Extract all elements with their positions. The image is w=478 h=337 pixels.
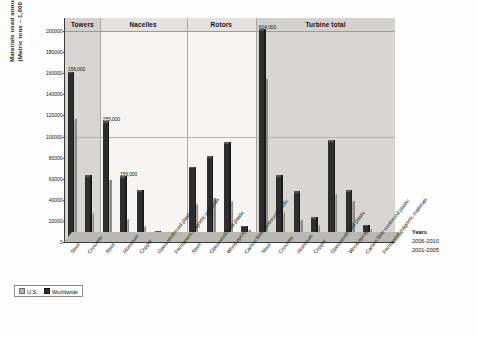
- y-axis-tick: 20000: [49, 218, 63, 224]
- y-axis-tick: 40000: [49, 197, 63, 203]
- bar-side-face: [264, 29, 266, 242]
- y-axis-tick: 80000: [49, 155, 63, 161]
- years-legend-back: 2001-2005: [412, 246, 439, 255]
- y-axis-tick: 180000: [46, 49, 62, 55]
- bar-side-face: [336, 194, 338, 237]
- bar-side-face: [353, 201, 355, 237]
- bar-side-face: [195, 167, 197, 242]
- bar-side-face: [110, 180, 112, 238]
- group-header: Towers: [65, 18, 100, 32]
- years-legend-front: 2006-2010: [412, 237, 439, 246]
- legend-swatch-us: [19, 288, 25, 294]
- bar-side-face: [75, 119, 77, 237]
- bar-side-face: [90, 175, 92, 242]
- years-legend: Years 2006-2010 2001-2005: [412, 228, 439, 255]
- gridline: [65, 137, 395, 138]
- bar-side-face: [73, 72, 75, 242]
- x-axis-label: Steel: [190, 242, 202, 255]
- group-header: Rotors: [187, 18, 256, 32]
- group-divider: [256, 18, 257, 242]
- x-axis-label: Steel: [69, 242, 81, 255]
- bar-side-face: [214, 198, 216, 237]
- y-axis-tick: 140000: [46, 91, 62, 97]
- series-legend: U.S. Worldwide: [14, 285, 83, 297]
- group-divider: [187, 18, 188, 242]
- y-axis-tick: 120000: [46, 112, 62, 118]
- y-axis-tick: 160000: [46, 70, 62, 76]
- group-header: Nacelles: [100, 18, 187, 32]
- bar-side-face: [266, 79, 268, 237]
- group-divider: [100, 18, 101, 242]
- bar-side-face: [229, 142, 231, 242]
- bar-side-face: [212, 156, 214, 242]
- legend-item-us: U.S.: [19, 288, 38, 295]
- bar-worldwide: [207, 158, 212, 242]
- x-axis-label: Steel: [260, 242, 272, 255]
- plot-area: TowersNacellesRotorsTurbine total 020000…: [64, 18, 395, 243]
- y-axis-tick: 60000: [49, 176, 63, 182]
- bar-worldwide: [259, 31, 264, 242]
- bar-worldwide: [328, 142, 333, 242]
- y-axis-title: Materials used annually (Metric tons – 1…: [8, 0, 23, 96]
- bar-worldwide: [224, 144, 229, 242]
- legend-label-worldwide: Worldwide: [52, 288, 78, 294]
- chart-canvas: Materials used annually (Metric tons – 1…: [0, 0, 478, 337]
- data-label: 255,000: [103, 116, 120, 122]
- plot-floor: [64, 232, 404, 243]
- y-axis-tick: 100000: [46, 134, 62, 140]
- legend-item-worldwide: Worldwide: [44, 288, 78, 295]
- y-axis-tick: 0: [60, 239, 63, 245]
- y-axis-title-line1: Materials used annually: [8, 0, 16, 96]
- data-label: 604,000: [259, 24, 276, 30]
- bar-side-face: [334, 140, 336, 242]
- bar-side-face: [108, 121, 110, 242]
- years-legend-title: Years: [412, 228, 439, 237]
- group-header: Turbine total: [256, 18, 395, 32]
- bar-side-face: [281, 175, 283, 242]
- legend-label-us: U.S.: [27, 288, 38, 294]
- legend-swatch-worldwide: [44, 288, 50, 294]
- data-label: 159,000: [120, 171, 137, 177]
- bar-side-face: [232, 201, 234, 237]
- y-axis-title-line2: (Metric tons – 1,000 kg): [16, 0, 24, 96]
- y-axis-tick: 200000: [46, 28, 62, 34]
- data-label: 156,000: [68, 66, 85, 72]
- bar-worldwide: [68, 73, 73, 242]
- x-axis-label: Steel: [104, 242, 116, 255]
- bar-worldwide: [189, 168, 194, 242]
- bar-worldwide: [103, 123, 108, 242]
